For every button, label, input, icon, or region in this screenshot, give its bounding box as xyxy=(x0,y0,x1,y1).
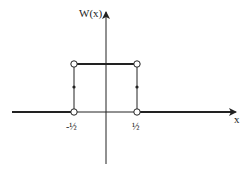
half-value-dot-right xyxy=(135,85,138,88)
open-point-bottom-right xyxy=(134,109,140,115)
half-value-dot-left xyxy=(72,85,75,88)
open-point-top-left xyxy=(71,61,77,67)
open-point-top-right xyxy=(134,61,140,67)
tick-label-neg-half: -½ xyxy=(66,121,77,132)
x-axis-label: x xyxy=(234,113,240,125)
window-function-diagram xyxy=(0,0,249,172)
tick-label-pos-half: ½ xyxy=(132,121,140,132)
open-point-bottom-left xyxy=(71,109,77,115)
y-axis-label: W(x) xyxy=(79,7,102,19)
